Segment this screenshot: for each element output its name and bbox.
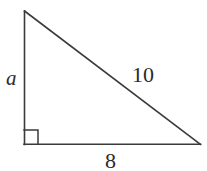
triangle-hypotenuse	[25, 11, 201, 144]
label-vertical-leg-a: a	[6, 68, 17, 89]
right-angle-marker-icon	[24, 130, 38, 144]
triangle-shape	[0, 0, 207, 171]
label-hypotenuse-10: 10	[132, 64, 154, 86]
right-triangle-figure: a 10 8	[0, 0, 207, 171]
label-horizontal-leg-8: 8	[105, 150, 116, 171]
